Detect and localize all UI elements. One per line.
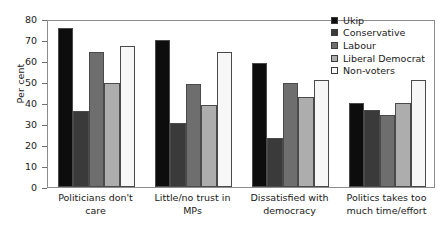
legend-item: Non-voters: [331, 64, 437, 77]
bar: [380, 115, 396, 187]
x-axis-category-label: Politics takes toomuch time/effort: [327, 192, 442, 217]
legend-item-label: Labour: [343, 40, 376, 51]
bar: [120, 46, 136, 187]
legend-item-label: Conservative: [343, 27, 405, 38]
bar: [411, 80, 427, 187]
bar: [186, 84, 202, 187]
legend-item-label: Ukip: [343, 15, 364, 26]
bar: [170, 123, 186, 187]
bar: [267, 138, 283, 187]
y-axis-tick-label: 70: [25, 34, 37, 47]
legend-swatch-icon: [331, 29, 338, 36]
bar: [155, 40, 171, 187]
y-axis-tick-label: 80: [25, 13, 37, 26]
legend-item-label: Liberal Democrat: [343, 53, 425, 64]
legend: UkipConservativeLabourLiberal DemocratNo…: [331, 14, 437, 77]
bar: [73, 111, 89, 187]
bar-group: [58, 21, 136, 187]
x-axis-category-line: much time/effort: [327, 205, 442, 218]
legend-swatch-icon: [331, 42, 338, 49]
bar: [349, 103, 365, 187]
y-axis-title: Per cent: [15, 44, 26, 124]
y-axis-tick-label: 30: [25, 118, 37, 131]
legend-swatch-icon: [331, 17, 338, 24]
y-axis-tick-label: 60: [25, 55, 37, 68]
bar: [395, 103, 411, 187]
bar-group: [155, 21, 233, 187]
legend-item: Ukip: [331, 14, 437, 27]
x-axis-category-line: Politics takes too: [327, 192, 442, 205]
bar: [89, 52, 105, 187]
bar: [364, 110, 380, 187]
y-axis-tick-mark: [42, 188, 47, 189]
bar: [104, 83, 120, 187]
y-axis-tick-label: 40: [25, 97, 37, 110]
legend-swatch-icon: [331, 55, 338, 62]
y-axis-tick-label: 50: [25, 76, 37, 89]
legend-item: Liberal Democrat: [331, 52, 437, 65]
legend-item-label: Non-voters: [343, 65, 395, 76]
bar: [252, 63, 268, 187]
bar: [201, 105, 217, 187]
y-axis-tick-label: 10: [25, 160, 37, 173]
bar-chart: Per cent 01020304050607080 Politicians d…: [0, 0, 442, 231]
legend-item: Labour: [331, 39, 437, 52]
bar: [58, 28, 74, 187]
bar: [283, 83, 299, 187]
legend-swatch-icon: [331, 67, 338, 74]
bar: [314, 80, 330, 187]
y-axis-tick-label: 20: [25, 139, 37, 152]
bar: [217, 52, 233, 187]
bar-group: [252, 21, 330, 187]
bar: [298, 97, 314, 187]
legend-item: Conservative: [331, 27, 437, 40]
